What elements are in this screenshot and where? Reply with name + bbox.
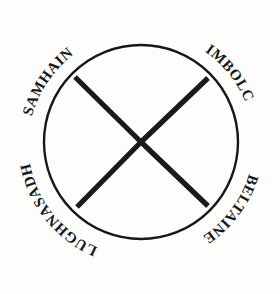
celtic-wheel-figure: SAMHAIN IMBOLC BELTAINE LUGHNASADH <box>0 0 280 294</box>
cross-arm-lower-right <box>141 142 208 206</box>
label-samhain-text: SAMHAIN <box>19 44 76 117</box>
label-samhain: SAMHAIN <box>19 44 76 117</box>
label-imbolc: IMBOLC <box>203 41 257 104</box>
label-lughnasadh-text: LUGHNASADH <box>17 162 99 260</box>
wheel-diagram: SAMHAIN IMBOLC BELTAINE LUGHNASADH <box>0 0 280 294</box>
cross-arm-upper-right <box>141 78 208 142</box>
cross-arm-lower-left <box>77 142 141 207</box>
cross-arm-upper-left <box>75 77 141 142</box>
label-lughnasadh: LUGHNASADH <box>17 162 99 260</box>
label-imbolc-text: IMBOLC <box>203 41 257 104</box>
